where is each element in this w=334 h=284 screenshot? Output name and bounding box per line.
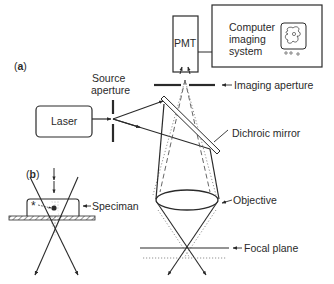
imaging-aperture-label: Imaging aperture: [234, 79, 314, 91]
panel-b: (b) * Speciman: [9, 168, 139, 275]
objective-lens: Objective: [156, 190, 277, 210]
imaging-aperture: Imaging aperture: [154, 79, 314, 91]
computer-label-line1: Computer: [229, 21, 276, 33]
panel-b-label: (b): [26, 168, 39, 180]
computer-label-line3: system: [229, 45, 263, 57]
laser-label: Laser: [51, 115, 78, 127]
source-aperture-label-line2: aperture: [91, 84, 130, 96]
asterisk-marker: *: [31, 199, 36, 213]
computer-label-line2: imaging: [229, 33, 266, 45]
panel-a-label: (a): [14, 60, 27, 72]
source-aperture-label-line1: Source: [92, 72, 125, 84]
dichroic-mirror-label: Dichroic mirror: [232, 127, 301, 139]
focal-plane: Focal plane: [140, 242, 298, 258]
monitor-icon: [281, 23, 306, 55]
pmt-detector: PMT: [173, 16, 198, 74]
source-aperture: Source aperture: [91, 72, 130, 142]
svg-text:(a): (a): [14, 60, 27, 72]
dichroic-mirror: Dichroic mirror: [161, 96, 301, 154]
computer-imaging-system: Computer imaging system: [212, 5, 322, 67]
focal-plane-label: Focal plane: [244, 242, 298, 254]
objective-label: Objective: [233, 194, 277, 206]
laser-source: Laser: [36, 106, 92, 137]
pmt-label: PMT: [174, 37, 197, 49]
confocal-microscope-diagram: (a) Computer imaging system PMT Imaging …: [0, 0, 334, 284]
emission-rays: [153, 80, 216, 258]
specimen-label: Speciman: [92, 200, 139, 212]
